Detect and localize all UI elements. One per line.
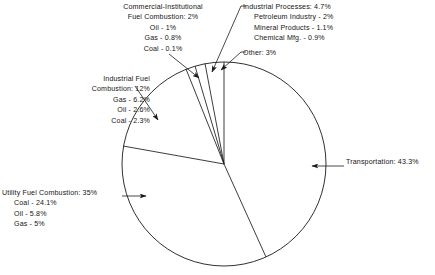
label-processes-petroleum: Petroleum Industry - 2%	[243, 12, 393, 22]
label-industrial-line2: Combustion: 12%	[30, 84, 150, 94]
label-commercial-coal: Coal - 0.1%	[98, 44, 228, 54]
figure-caption	[0, 266, 435, 275]
label-commercial-institutional: Commercial-Institutional Fuel Combustion…	[98, 2, 228, 54]
label-industrial-coal: Coal - 2.3%	[30, 116, 150, 126]
label-commercial-gas: Gas - 0.8%	[98, 33, 228, 43]
label-utility-coal: Coal - 24.1%	[2, 198, 162, 208]
label-industrial-processes: Industrial Processes: 4.7% Petroleum Ind…	[243, 2, 393, 44]
label-commercial-line1: Commercial-Institutional	[98, 2, 228, 12]
label-utility-line1: Utility Fuel Combustion: 35%	[2, 188, 162, 198]
label-processes-mineral: Mineral Products - 1.1%	[243, 23, 393, 33]
label-commercial-line2: Fuel Combustion: 2%	[98, 12, 228, 22]
label-commercial-oil: Oil - 1%	[98, 23, 228, 33]
label-other-line1: Other: 3%	[243, 48, 343, 58]
label-transportation-line1: Transportation: 43.3%	[346, 157, 435, 167]
label-processes-line1: Industrial Processes: 4.7%	[243, 2, 393, 12]
label-processes-chemical: Chemical Mfg. - 0.9%	[243, 33, 393, 43]
label-utility-oil: Oil - 5.8%	[2, 209, 162, 219]
label-other: Other: 3%	[243, 48, 343, 58]
label-industrial-line1: Industrial Fuel	[30, 74, 150, 84]
pie-chart-figure: Commercial-Institutional Fuel Combustion…	[0, 0, 435, 275]
label-utility-gas: Gas - 5%	[2, 219, 162, 229]
label-industrial-gas: Gas - 6.2%	[30, 95, 150, 105]
label-industrial-oil: Oil - 2.6%	[30, 105, 150, 115]
label-industrial-fuel-combustion: Industrial Fuel Combustion: 12% Gas - 6.…	[30, 74, 150, 126]
label-utility-fuel-combustion: Utility Fuel Combustion: 35% Coal - 24.1…	[2, 188, 162, 230]
label-transportation: Transportation: 43.3%	[346, 157, 435, 167]
